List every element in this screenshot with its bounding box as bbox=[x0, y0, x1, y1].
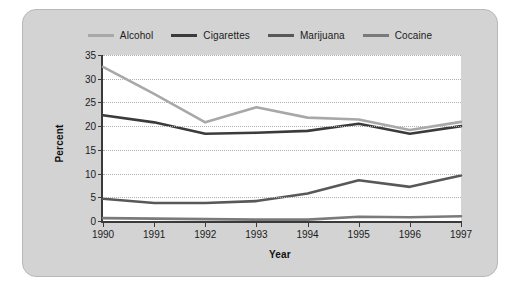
x-tick-label: 1995 bbox=[348, 229, 370, 240]
y-tick-mark bbox=[98, 79, 103, 80]
gridline bbox=[103, 79, 461, 80]
legend-entry-cigarettes[interactable]: Cigarettes bbox=[171, 30, 250, 41]
y-tick-label: 25 bbox=[85, 97, 96, 108]
y-tick-mark bbox=[98, 126, 103, 127]
x-tick-mark bbox=[461, 221, 462, 227]
y-tick-mark bbox=[98, 174, 103, 175]
series-line-marijuana bbox=[103, 175, 461, 203]
x-tick-label: 1996 bbox=[399, 229, 421, 240]
legend-entry-cocaine[interactable]: Cocaine bbox=[363, 30, 432, 41]
x-tick-label: 1991 bbox=[143, 229, 165, 240]
legend-entry-marijuana[interactable]: Marijuana bbox=[268, 30, 345, 41]
legend-swatch-icon bbox=[363, 34, 389, 37]
chart-figure: AlcoholCigarettesMarijuanaCocaine Percen… bbox=[22, 9, 498, 277]
legend-swatch-icon bbox=[88, 34, 114, 37]
gridline bbox=[103, 197, 461, 198]
x-tick-label: 1992 bbox=[194, 229, 216, 240]
series-line-cocaine bbox=[103, 216, 461, 219]
y-tick-label: 15 bbox=[85, 144, 96, 155]
series-line-alcohol bbox=[103, 67, 461, 130]
legend-label: Cocaine bbox=[395, 30, 432, 41]
x-tick-label: 1990 bbox=[92, 229, 114, 240]
x-tick-label: 1994 bbox=[296, 229, 318, 240]
y-tick-label: 35 bbox=[85, 50, 96, 61]
y-tick-mark bbox=[98, 102, 103, 103]
y-tick-label: 0 bbox=[90, 216, 96, 227]
legend-label: Alcohol bbox=[120, 30, 154, 41]
x-tick-mark bbox=[256, 221, 257, 227]
series-lines bbox=[103, 55, 461, 221]
y-tick-mark bbox=[98, 150, 103, 151]
series-line-cigarettes bbox=[103, 115, 461, 134]
x-tick-label: 1997 bbox=[450, 229, 472, 240]
chart-plot-wrapper: AlcoholCigarettesMarijuanaCocaine Percen… bbox=[23, 10, 497, 276]
x-tick-mark bbox=[410, 221, 411, 227]
legend-label: Marijuana bbox=[300, 30, 345, 41]
y-axis-title: Percent bbox=[54, 124, 65, 162]
y-tick-label: 30 bbox=[85, 73, 96, 84]
legend-swatch-icon bbox=[171, 34, 197, 37]
x-tick-mark bbox=[359, 221, 360, 227]
gridline bbox=[103, 126, 461, 127]
gridline bbox=[103, 55, 461, 56]
legend-entry-alcohol[interactable]: Alcohol bbox=[88, 30, 154, 41]
x-axis-title: Year bbox=[101, 249, 459, 260]
chart-legend: AlcoholCigarettesMarijuanaCocaine bbox=[23, 30, 497, 41]
x-tick-mark bbox=[154, 221, 155, 227]
x-tick-mark bbox=[205, 221, 206, 227]
plot-area: 0510152025303519901991199219931994199519… bbox=[101, 55, 461, 223]
y-tick-mark bbox=[98, 197, 103, 198]
gridline bbox=[103, 150, 461, 151]
gridline bbox=[103, 102, 461, 103]
legend-label: Cigarettes bbox=[203, 30, 250, 41]
y-tick-label: 20 bbox=[85, 121, 96, 132]
x-tick-label: 1993 bbox=[245, 229, 267, 240]
legend-swatch-icon bbox=[268, 34, 294, 37]
x-tick-mark bbox=[308, 221, 309, 227]
y-tick-mark bbox=[98, 55, 103, 56]
x-tick-mark bbox=[103, 221, 104, 227]
y-tick-label: 5 bbox=[90, 192, 96, 203]
gridline bbox=[103, 174, 461, 175]
y-tick-label: 10 bbox=[85, 168, 96, 179]
